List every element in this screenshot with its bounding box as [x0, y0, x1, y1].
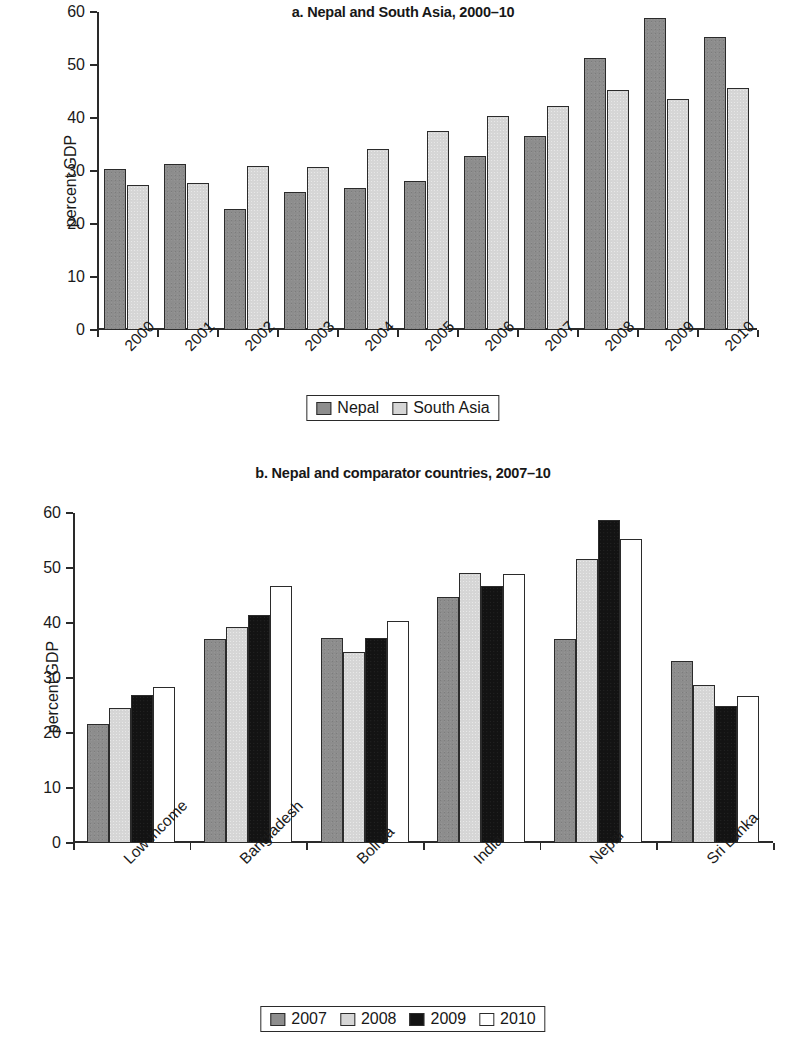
- bar: [104, 169, 126, 330]
- x-axis-tick: [540, 843, 542, 850]
- legend-item: 2009: [410, 1010, 467, 1028]
- legend-item-label: 2009: [431, 1010, 467, 1028]
- bar: [404, 181, 426, 330]
- chart-b-y-axis-title: percent GDP: [44, 641, 62, 733]
- x-axis-tick: [217, 330, 219, 337]
- x-axis-tick: [337, 330, 339, 337]
- y-axis-tick-label: 30: [21, 669, 61, 687]
- bar: [224, 209, 246, 330]
- bar: [704, 37, 726, 330]
- y-axis-tick-label: 60: [45, 3, 85, 21]
- bar: [343, 652, 365, 843]
- y-axis-tick-label: 10: [21, 779, 61, 797]
- x-axis-tick: [697, 330, 699, 337]
- bar: [584, 58, 606, 330]
- legend-item: 2007: [270, 1010, 327, 1028]
- legend-item-label: 2008: [361, 1010, 397, 1028]
- legend-item: South Asia: [392, 399, 490, 417]
- bar: [427, 131, 449, 330]
- bar-group: [540, 513, 657, 843]
- light-gray-swatch-icon: [392, 402, 407, 415]
- x-axis-tick: [397, 330, 399, 337]
- bar: [307, 167, 329, 330]
- x-axis-tick: [157, 330, 159, 337]
- bar-group: [656, 513, 773, 843]
- bar: [671, 661, 693, 843]
- bar: [187, 183, 209, 330]
- bar: [367, 149, 389, 330]
- y-axis-tick-label: 50: [21, 559, 61, 577]
- legend-item-label: 2007: [291, 1010, 327, 1028]
- bar: [164, 164, 186, 330]
- y-axis-tick: [66, 512, 73, 514]
- y-axis-tick: [66, 622, 73, 624]
- bar-group: [697, 12, 757, 330]
- legend-item-label: 2010: [500, 1010, 536, 1028]
- y-axis-tick-label: 0: [21, 834, 61, 852]
- bar-group: [277, 12, 337, 330]
- bar: [284, 192, 306, 330]
- bar-group: [73, 513, 190, 843]
- bar: [481, 586, 503, 843]
- dark-gray-swatch-icon: [270, 1013, 285, 1026]
- y-axis-tick: [66, 677, 73, 679]
- y-axis-tick: [66, 842, 73, 844]
- bar: [464, 156, 486, 330]
- legend-item: 2008: [340, 1010, 397, 1028]
- bar: [576, 559, 598, 843]
- bar: [620, 539, 642, 843]
- bar-group: [397, 12, 457, 330]
- bar: [437, 597, 459, 843]
- bar-group: [217, 12, 277, 330]
- bar-group: [577, 12, 637, 330]
- bar: [554, 639, 576, 843]
- y-axis-tick: [90, 329, 97, 331]
- y-axis-tick: [90, 11, 97, 13]
- bar-group: [337, 12, 397, 330]
- y-axis-tick: [66, 787, 73, 789]
- y-axis-tick: [66, 732, 73, 734]
- white-swatch-icon: [479, 1013, 494, 1026]
- chart-b-legend: 2007200820092010: [260, 1006, 545, 1032]
- y-axis-tick-label: 30: [45, 162, 85, 180]
- y-axis-tick: [90, 223, 97, 225]
- x-axis-tick: [73, 843, 75, 850]
- bar: [715, 706, 737, 844]
- bar: [503, 574, 525, 843]
- chart-panel-b: b. Nepal and comparator countries, 2007–…: [0, 455, 806, 1044]
- bar: [248, 615, 270, 843]
- bar: [204, 639, 226, 843]
- dark-gray-swatch-icon: [316, 402, 331, 415]
- bar: [693, 685, 715, 843]
- bar: [87, 724, 109, 843]
- bar: [524, 136, 546, 331]
- bar-group: [97, 12, 157, 330]
- chart-a-y-axis-title: percent GDP: [62, 135, 80, 227]
- legend-item-label: South Asia: [413, 399, 490, 417]
- bar-group: [517, 12, 577, 330]
- bar: [607, 90, 629, 330]
- bar: [547, 106, 569, 330]
- chart-b-title: b. Nepal and comparator countries, 2007–…: [0, 465, 806, 481]
- x-axis-tick: [637, 330, 639, 337]
- x-axis-tick: [190, 843, 192, 850]
- bar-group: [423, 513, 540, 843]
- y-axis-tick: [66, 567, 73, 569]
- bar: [459, 573, 481, 843]
- bar-group: [457, 12, 517, 330]
- legend-item-label: Nepal: [337, 399, 379, 417]
- y-axis-tick-label: 40: [45, 109, 85, 127]
- chart-a-plot-area: 0102030405060200020012002200320042005200…: [97, 12, 757, 330]
- x-axis-tick: [97, 330, 99, 337]
- bar: [344, 188, 366, 330]
- chart-panel-a: a. Nepal and South Asia, 2000–10 percent…: [0, 0, 806, 440]
- y-axis-tick: [90, 64, 97, 66]
- x-axis-tick: [277, 330, 279, 337]
- x-axis-tick: [773, 843, 775, 850]
- bar-group: [306, 513, 423, 843]
- bar: [644, 18, 666, 330]
- light-gray-swatch-icon: [340, 1013, 355, 1026]
- x-axis-tick: [306, 843, 308, 850]
- bar: [109, 708, 131, 843]
- x-axis-tick: [577, 330, 579, 337]
